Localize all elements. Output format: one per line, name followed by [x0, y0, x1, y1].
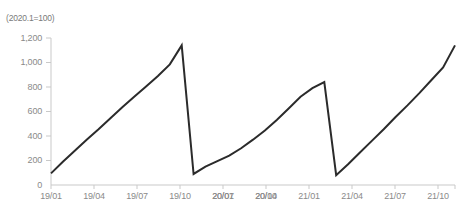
- x-axis: [51, 185, 455, 189]
- plot-area: [0, 0, 461, 213]
- y-axis: [46, 38, 51, 185]
- data-line-series: [51, 45, 455, 175]
- chart-container: (2020.1=100) 1,200 1,000 800 600 400 200…: [0, 0, 461, 213]
